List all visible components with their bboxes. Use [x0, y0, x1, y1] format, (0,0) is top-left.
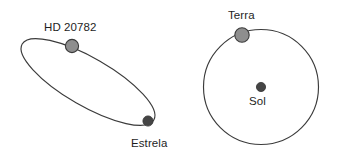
elliptical-orbit-group: [10, 23, 166, 141]
label-sol: Sol: [249, 96, 266, 108]
planet-marker-hd20782: [65, 39, 78, 52]
star-marker-sol: [256, 82, 265, 91]
label-estrela: Estrela: [131, 138, 168, 150]
star-marker-estrela: [143, 116, 153, 126]
circular-orbit-group: [204, 28, 319, 145]
orbit-comparison-figure: HD 20782 Estrela Terra Sol Reprodução/AC…: [0, 0, 350, 165]
label-hd20782: HD 20782: [44, 22, 97, 34]
ellipse-orbit-path: [10, 23, 166, 141]
label-terra: Terra: [228, 10, 255, 22]
planet-marker-terra: [235, 28, 249, 42]
